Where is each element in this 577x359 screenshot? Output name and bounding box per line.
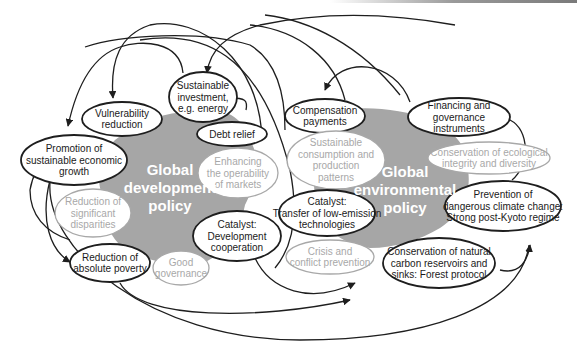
node-label-line: e.g. energy xyxy=(178,103,228,114)
node-good-governance: Goodgovernance xyxy=(153,251,209,285)
node-prevention-climate: Prevention ofdangerous climate change:St… xyxy=(443,181,563,231)
region-title-line: policy xyxy=(383,199,427,216)
node-label-line: the operability xyxy=(207,168,269,179)
node-vulnerability-reduction: Vulnerabilityreduction xyxy=(82,102,162,136)
node-label-line: Financing and xyxy=(428,100,491,111)
node-label-line: Good xyxy=(169,257,193,268)
node-label-line: Catalyst: xyxy=(308,196,347,207)
region-title-line: Global xyxy=(382,163,429,180)
connector xyxy=(207,16,455,73)
node-label-line: conflict prevention xyxy=(290,257,371,268)
node-label-line: disparities xyxy=(70,219,115,230)
node-label-line: sinks: Forest protocol xyxy=(391,269,486,280)
node-label-line: Prevention of xyxy=(474,189,533,200)
node-label-line: dangerous climate change: xyxy=(443,201,563,212)
node-label-line: growth xyxy=(59,166,89,177)
node-label-line: patterns xyxy=(318,172,354,183)
node-label-line: Conservation of ecological xyxy=(430,147,547,158)
node-label-line: investment, xyxy=(177,92,228,103)
node-label-line: Promotion of xyxy=(46,143,103,154)
node-conservation-carbon: Conservation of naturalcarbon reservoirs… xyxy=(383,238,495,288)
node-reduction-poverty: Reduction ofabsolute poverty xyxy=(70,244,150,282)
node-label-line: Enhancing xyxy=(214,156,261,167)
node-label-line: Conservation of natural xyxy=(387,246,490,257)
node-label-line: governance xyxy=(433,112,486,123)
node-label-line: Reduction of xyxy=(65,196,121,207)
node-conservation-ecological: Conservation of ecologicalintegrity and … xyxy=(428,142,550,174)
node-label-line: sustainable economic xyxy=(26,155,122,166)
node-label-line: governance xyxy=(155,268,208,279)
node-sustainable-investment: Sustainableinvestment,e.g. energy xyxy=(169,72,237,122)
connector xyxy=(325,67,410,102)
node-label-line: instruments xyxy=(433,123,485,134)
node-label-line: cooperation xyxy=(211,242,263,253)
node-crisis-prevention: Crisis andconflict prevention xyxy=(286,240,374,274)
node-compensation-payments: Compensationpayments xyxy=(285,99,365,133)
node-label-line: reduction xyxy=(101,119,142,130)
node-label-line: absolute poverty xyxy=(73,263,146,274)
region-title-line: Global xyxy=(147,161,194,178)
node-label-line: of markets xyxy=(215,179,262,190)
node-promotion-growth: Promotion ofsustainable economicgrowth xyxy=(21,135,127,185)
node-label-line: significant xyxy=(71,208,116,219)
node-label-line: Development xyxy=(208,231,267,242)
node-label-line: Sustainable xyxy=(310,137,363,148)
node-label-line: Compensation xyxy=(293,105,357,116)
node-label-line: Transfer of low-emission xyxy=(273,208,382,219)
node-label-line: carbon reservoirs and xyxy=(391,258,488,269)
node-label-line: Vulnerability xyxy=(95,108,149,119)
policy-diagram: Sustainableinvestment,e.g. energyVulnera… xyxy=(0,0,577,359)
node-label-line: technologies xyxy=(299,219,355,230)
node-catalyst-development: Catalyst:Developmentcooperation xyxy=(193,211,281,261)
node-debt-relief: Debt relief xyxy=(197,122,267,146)
node-label-line: Reduction of xyxy=(82,252,138,263)
region-title-line: environmental xyxy=(354,181,457,198)
node-reduction-disparities: Reduction ofsignificantdisparities xyxy=(55,189,131,237)
node-label-line: production xyxy=(313,160,360,171)
region-title-line: development xyxy=(124,179,217,196)
node-label-line: Debt relief xyxy=(209,129,255,140)
node-label-line: integrity and diversity xyxy=(442,158,536,169)
node-label-line: consumption and xyxy=(298,149,374,160)
node-label-line: Strong post-Kyoto regime xyxy=(446,212,560,223)
region-title-line: policy xyxy=(148,197,192,214)
node-financing-instruments: Financing andgovernanceinstruments xyxy=(408,98,510,136)
node-label-line: payments xyxy=(303,116,346,127)
node-label-line: Sustainable xyxy=(177,80,230,91)
connector xyxy=(265,15,400,95)
node-label-line: Catalyst: xyxy=(218,219,257,230)
node-label-line: Crisis and xyxy=(308,246,352,257)
